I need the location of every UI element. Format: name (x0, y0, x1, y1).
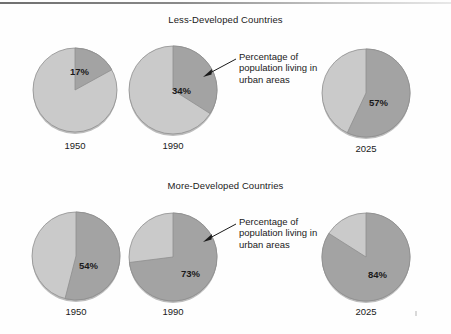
pie-year-label-less-developed-1990: 1990 (135, 140, 211, 151)
pie-slice-percent-label: 54% (79, 260, 98, 271)
pie-year-label-less-developed-2025: 2025 (328, 143, 404, 154)
pie-slice-percent-label: 57% (369, 97, 388, 108)
annotation-line-1: Percentage of (239, 216, 317, 227)
pie-year-label-more-developed-2025: 2025 (328, 306, 404, 317)
panel-title-more-developed: More-Developed Countries (0, 180, 451, 191)
pie-chart-less-developed-1950: 17% (32, 46, 118, 134)
pie-slice-percent-label: 34% (172, 85, 191, 96)
pie-svg (321, 47, 411, 139)
pie-svg (32, 46, 118, 134)
pie-slice-percent-label: 84% (368, 269, 387, 280)
annotation-arrow-more-developed (200, 222, 238, 244)
pie-chart-more-developed-2025: 84% (321, 211, 411, 303)
annotation-line-3: urban areas (239, 74, 317, 85)
top-rule-divider (0, 2, 451, 4)
pie-year-label-more-developed-1950: 1950 (38, 306, 114, 317)
pie-svg (31, 210, 121, 302)
pie-slice-percent-label: 73% (181, 268, 200, 279)
annotation-line-1: Percentage of (239, 51, 317, 62)
annotation-more-developed: Percentage of population living in urban… (239, 216, 317, 250)
pie-year-label-less-developed-1950: 1950 (37, 140, 113, 151)
annotation-line-2: population living in (239, 227, 317, 238)
pie-chart-more-developed-1950: 54% (31, 210, 121, 302)
pie-slice-percent-label: 17% (70, 66, 89, 77)
annotation-less-developed: Percentage of population living in urban… (239, 51, 317, 85)
pie-chart-less-developed-2025: 57% (321, 47, 411, 139)
annotation-arrow-less-developed (200, 57, 238, 79)
pie-year-label-more-developed-1990: 1990 (135, 306, 211, 317)
annotation-line-3: urban areas (239, 239, 317, 250)
figure-root: Less-Developed Countries 17% 1950 34% 19… (0, 0, 451, 334)
pie-svg (321, 211, 411, 303)
panel-title-less-developed: Less-Developed Countries (0, 14, 451, 25)
scan-artifact-speck (415, 311, 417, 316)
annotation-line-2: population living in (239, 62, 317, 73)
